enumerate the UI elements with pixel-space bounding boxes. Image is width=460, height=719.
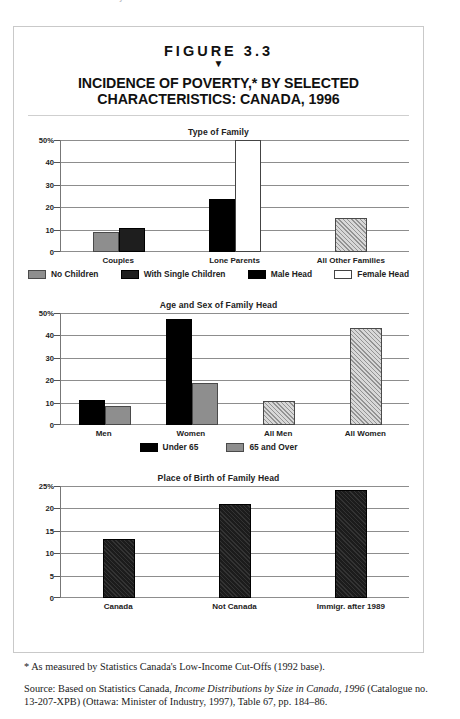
legend-item: Under 65	[140, 442, 199, 452]
bar	[219, 504, 251, 598]
x-tick-label: Not Canada	[212, 602, 256, 611]
legend-label: Male Head	[271, 269, 312, 279]
x-tick-label: All Men	[264, 429, 292, 438]
legend-swatch	[248, 270, 266, 279]
bars-layer	[61, 313, 409, 425]
legend-item: Female Head	[334, 269, 409, 279]
x-tick-label: All Other Families	[317, 256, 385, 265]
y-axis-labels: 01020304050%	[28, 140, 54, 252]
x-tick-label: Canada	[104, 602, 133, 611]
bar	[166, 319, 192, 425]
y-tick-label: 40	[46, 331, 54, 340]
legend-swatch	[334, 270, 352, 279]
bar-group	[61, 313, 148, 425]
page-section-title: Analysis of Institutions and Social Cont…	[102, 0, 261, 1]
x-tick-label: Lone Parents	[209, 256, 260, 265]
y-axis-labels: 0510152025%	[28, 486, 54, 598]
footnote: * As measured by Statistics Canada's Low…	[24, 660, 442, 673]
bar	[79, 400, 105, 425]
chart-title: Place of Birth of Family Head	[28, 473, 409, 483]
legend-swatch	[28, 270, 46, 279]
bar	[263, 401, 295, 425]
bar-group	[177, 486, 293, 598]
x-axis-labels: CanadaNot CanadaImmigr. after 1989	[60, 598, 409, 614]
y-tick-label: 30	[46, 180, 54, 189]
title-divider	[28, 115, 409, 116]
y-tick-label: 20	[46, 504, 54, 513]
y-tick-label: 15	[46, 526, 54, 535]
bar-group	[322, 313, 409, 425]
x-axis-labels: CouplesLone ParentsAll Other Families	[60, 252, 409, 268]
bar-group	[61, 140, 177, 252]
chart-legend: Under 6565 and Over	[28, 442, 409, 452]
chart-title: Age and Sex of Family Head	[28, 300, 409, 310]
chart-age-and-sex-of-family-head: Age and Sex of Family Head 01020304050% …	[28, 300, 409, 452]
source-note: Source: Based on Statistics Canada, Inco…	[24, 682, 442, 709]
bar-group	[293, 486, 409, 598]
source-title: Income Distributions by Size in Canada, …	[174, 683, 364, 694]
figure-notes: * As measured by Statistics Canada's Low…	[24, 660, 442, 709]
bar	[119, 228, 145, 252]
page-part-label: PART ONE	[39, 0, 78, 1]
plot-area	[60, 486, 409, 598]
x-tick-label: All Women	[345, 429, 386, 438]
plot-area	[60, 140, 409, 252]
bars-layer	[61, 140, 409, 252]
legend-item: With Single Children	[121, 269, 226, 279]
bar	[335, 490, 367, 598]
plot-area	[60, 313, 409, 425]
legend-label: With Single Children	[144, 269, 226, 279]
page-running-header: 102 PART ONE Analysis of Institutions an…	[0, 0, 460, 4]
figure-number: FIGURE 3.3	[14, 43, 423, 59]
x-tick-label: Couples	[102, 256, 134, 265]
y-tick-label: 50%	[39, 136, 54, 145]
y-tick-label: 30	[46, 353, 54, 362]
chart-place-of-birth-of-family-head: Place of Birth of Family Head 0510152025…	[28, 473, 409, 598]
y-tick-label: 50%	[39, 309, 54, 318]
bar-group	[293, 140, 409, 252]
caret-down-icon: ▼	[14, 60, 423, 68]
bars-layer	[61, 486, 409, 598]
legend-swatch	[121, 270, 139, 279]
source-prefix: Source: Based on Statistics Canada,	[24, 683, 174, 694]
chart-title: Type of Family	[28, 127, 409, 137]
legend-item: No Children	[28, 269, 98, 279]
legend-swatch	[140, 443, 158, 452]
bar-group	[61, 486, 177, 598]
legend-swatch	[226, 443, 244, 452]
y-axis-labels: 01020304050%	[28, 313, 54, 425]
legend-label: Under 65	[163, 442, 199, 452]
bar-group	[148, 313, 235, 425]
bar	[192, 383, 218, 425]
legend-label: 65 and Over	[249, 442, 297, 452]
legend-label: Female Head	[357, 269, 409, 279]
legend-item: Male Head	[248, 269, 312, 279]
x-tick-label: Women	[177, 429, 206, 438]
y-tick-label: 40	[46, 158, 54, 167]
x-axis-labels: MenWomenAll MenAll Women	[60, 425, 409, 441]
bar	[209, 199, 235, 252]
bar	[350, 328, 382, 425]
bar	[105, 406, 131, 425]
y-tick-label: 20	[46, 203, 54, 212]
y-tick-label: 25%	[39, 482, 54, 491]
x-tick-label: Immigr. after 1989	[317, 602, 385, 611]
bar	[235, 140, 261, 252]
y-tick-label: 10	[46, 549, 54, 558]
chart-type-of-family: Type of Family 01020304050% CouplesLone …	[28, 127, 409, 279]
figure-title: INCIDENCE OF POVERTY,* BY SELECTED CHARA…	[20, 75, 417, 107]
bar	[103, 539, 135, 598]
page-number: 102	[10, 0, 23, 1]
legend-item: 65 and Over	[226, 442, 297, 452]
bar	[335, 218, 367, 252]
chart-legend: No ChildrenWith Single ChildrenMale Head…	[28, 269, 409, 279]
legend-label: No Children	[51, 269, 98, 279]
x-tick-label: Men	[96, 429, 112, 438]
figure-box: FIGURE 3.3 ▼ INCIDENCE OF POVERTY,* BY S…	[13, 26, 424, 653]
bar-group	[235, 313, 322, 425]
y-tick-label: 20	[46, 376, 54, 385]
y-tick-label: 10	[46, 225, 54, 234]
bar-group	[177, 140, 293, 252]
y-tick-label: 10	[46, 398, 54, 407]
bar	[93, 232, 119, 252]
